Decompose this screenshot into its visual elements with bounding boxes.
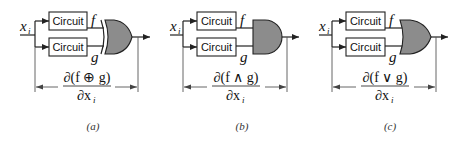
boolean-derivative-diagram: x i Circuit Circuit f g ∂(f ⊕ g) ∂x i (a… [0,0,467,142]
label-g: g [240,49,248,65]
denominator-subscript: i [93,95,96,105]
panel-c: x i Circuit Circuit f g ∂(f ∨ g) ∂x i (c… [318,12,448,133]
input-label-x: x [19,18,27,34]
denominator-subscript: i [242,95,245,105]
panel-a: x i Circuit Circuit f g ∂(f ⊕ g) ∂x i (a… [19,12,150,133]
denominator-subscript: i [391,95,394,105]
label-f: f [389,12,395,28]
derivative-denominator: ∂x [375,88,389,103]
circuit-label-top: Circuit [350,15,381,27]
xor-gate-icon [105,20,132,54]
label-g: g [389,49,397,65]
circuit-label-bottom: Circuit [350,41,381,53]
input-label-x: x [169,18,177,34]
caption-b: (b) [236,120,249,133]
panel-b: x i Circuit Circuit f g ∂(f ∧ g) ∂x i (b… [169,12,299,133]
circuit-label-top: Circuit [201,15,232,27]
derivative-numerator: ∂(f ∧ g) [214,70,259,86]
circuit-label-bottom: Circuit [52,41,83,53]
derivative-numerator: ∂(f ⊕ g) [64,70,111,86]
and-gate-icon [253,20,282,54]
derivative-numerator: ∂(f ∨ g) [363,70,408,86]
circuit-label-top: Circuit [52,15,83,27]
caption-a: (a) [87,120,100,133]
label-f: f [91,12,97,28]
derivative-denominator: ∂x [226,88,240,103]
label-f: f [240,12,246,28]
or-gate-icon [400,20,431,54]
label-g: g [91,49,99,65]
xor-back-curve [101,20,104,54]
input-label-x: x [318,18,326,34]
caption-c: (c) [384,120,397,133]
derivative-denominator: ∂x [77,88,91,103]
circuit-label-bottom: Circuit [201,41,232,53]
